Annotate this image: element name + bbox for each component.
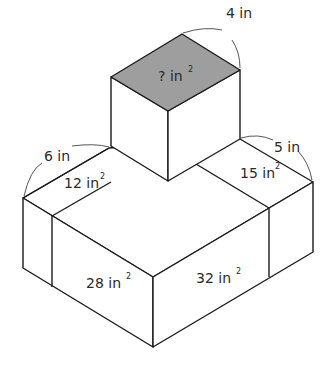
dimension-arc-4in	[183, 29, 222, 33]
prism-diagram: 4 in 6 in 5 in ? in 2 12 in 2 15 in 2 28…	[0, 0, 333, 384]
dimension-arc-5in	[241, 136, 273, 140]
dimension-label-6in: 6 in	[44, 148, 70, 164]
dimension-label-5in: 5 in	[274, 139, 300, 155]
svg-text:12 in: 12 in	[64, 175, 99, 191]
svg-text:2: 2	[100, 172, 105, 181]
svg-text:2: 2	[188, 65, 193, 74]
area-label-left-strip: 12 in 2	[64, 172, 105, 191]
svg-text:2: 2	[275, 162, 280, 171]
svg-text:? in: ? in	[158, 68, 183, 84]
svg-text:2: 2	[236, 267, 241, 276]
dimension-arc-6in-b	[72, 145, 109, 147]
dimension-label-4in: 4 in	[226, 5, 252, 21]
svg-text:15 in: 15 in	[240, 165, 275, 181]
svg-text:28 in: 28 in	[86, 275, 121, 291]
dimension-arc-4in-b	[232, 40, 240, 68]
svg-text:32 in: 32 in	[196, 270, 231, 286]
svg-text:2: 2	[126, 272, 131, 281]
area-label-right-strip: 15 in 2	[240, 162, 280, 181]
